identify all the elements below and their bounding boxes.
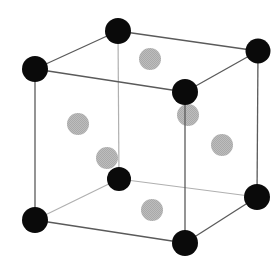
- face-atom-right-face: [211, 134, 233, 156]
- edge-top-back-left-to-top-back-right: [118, 31, 258, 51]
- corner-atom-bottom-back-right: [244, 184, 270, 210]
- corner-atom-top-back-left: [105, 18, 131, 44]
- edge-top-back-left-to-bottom-back-left: [118, 31, 119, 179]
- edge-bottom-back-left-to-bottom-back-right: [119, 179, 257, 197]
- face-atom-top-face: [139, 48, 161, 70]
- corner-atom-bottom-front-left: [22, 207, 48, 233]
- face-atom-left-face: [67, 113, 89, 135]
- corner-atom-bottom-back-left: [107, 167, 131, 191]
- face-atoms: [67, 48, 233, 221]
- edge-bottom-back-left-to-bottom-front-left: [35, 179, 119, 220]
- fcc-unit-cell-diagram: [0, 0, 278, 263]
- edge-top-back-left-to-top-front-left: [35, 31, 118, 69]
- face-atom-front-hidden-face: [96, 147, 118, 169]
- corner-atom-top-back-right: [246, 39, 271, 64]
- face-atom-bottom-face: [141, 199, 163, 221]
- corner-atom-top-front-left: [22, 56, 48, 82]
- edge-bottom-front-left-to-bottom-front-right: [35, 220, 185, 243]
- face-atom-back-face: [177, 104, 199, 126]
- edge-top-back-right-to-bottom-back-right: [257, 51, 258, 197]
- edge-top-front-left-to-top-front-right: [35, 69, 185, 92]
- corner-atom-top-front-right: [172, 79, 198, 105]
- corner-atom-bottom-front-right: [172, 230, 198, 256]
